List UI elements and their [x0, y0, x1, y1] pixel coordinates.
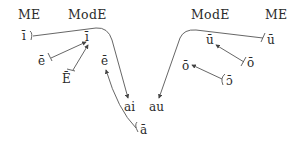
vowel-me-e-long-open: Ē [62, 73, 71, 85]
bar-e [48, 53, 52, 61]
arrow-a-to-e [106, 70, 136, 128]
arrow-E-to-i [73, 45, 88, 70]
vowel-me-o-long-close: ō [247, 57, 254, 69]
bar-o [241, 57, 246, 66]
arrow-e-to-i [51, 42, 86, 58]
vowel-me-a-long: ā [140, 124, 147, 136]
arrow-o-to-u [216, 45, 244, 62]
arrow-i-to-ai [33, 28, 128, 98]
vowel-mode-e-long: ē [101, 55, 108, 67]
vowel-mode-o-long: ō [182, 60, 189, 72]
shift-arrows [0, 0, 302, 144]
vowel-me-u-long: ū [267, 34, 275, 46]
vowel-me-e-long-close: ē [38, 55, 45, 67]
vowel-mode-u-long: ū [206, 34, 214, 46]
header-left-me: ME [18, 9, 41, 22]
bar-open-o [222, 74, 225, 85]
header-right-me: ME [265, 9, 288, 22]
arrow-open-o-to-o [192, 65, 222, 79]
bar-i [30, 31, 32, 40]
vowel-mode-i-long: ī [85, 31, 89, 43]
vowel-shift-diagram: ME ModE ModE ME ī ē Ē ī ē ai au ā ū ū ō … [0, 0, 302, 144]
diphthong-ai: ai [124, 101, 135, 113]
vowel-me-i-long: ī [22, 30, 26, 42]
header-left-mode: ModE [68, 9, 107, 22]
header-right-mode: ModE [191, 9, 230, 22]
bar-a [136, 122, 138, 132]
vowel-me-o-long-open: ɔ̄ [226, 75, 233, 87]
diphthong-au: au [149, 101, 164, 113]
